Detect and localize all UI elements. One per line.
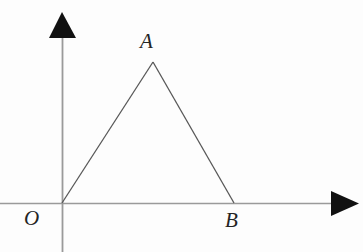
vertex-label-apex: A [140,31,153,52]
triangle-side-oa [62,62,153,203]
triangle-side-ab [153,62,234,203]
vertex-label-origin: O [24,208,39,229]
vertex-label-base-right: B [225,210,238,231]
arrow-right-icon [331,191,359,216]
arrow-up-icon [49,12,76,38]
geometry-figure: O A B [0,0,363,252]
figure-canvas [0,0,363,252]
